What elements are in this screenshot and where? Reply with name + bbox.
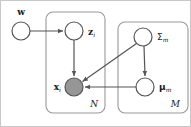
node-x[interactable]: xi <box>54 78 83 96</box>
edge-sigma-to-mu <box>144 46 145 76</box>
graphical-model-figure: N M w zi <box>0 0 191 127</box>
node-z-circle[interactable] <box>65 22 83 40</box>
plate-M: M <box>118 22 188 113</box>
node-z-label: zi <box>88 27 95 38</box>
plate-diagram-canvas: N M w zi <box>0 0 191 127</box>
node-mu[interactable]: μm <box>136 78 172 96</box>
edge-sigma-to-x <box>83 44 137 82</box>
node-x-label: xi <box>54 82 61 93</box>
node-x-circle[interactable] <box>65 78 83 96</box>
plate-N-label: N <box>89 99 99 109</box>
node-z[interactable]: zi <box>65 22 95 40</box>
node-mu-circle[interactable] <box>136 78 154 96</box>
node-sigma-circle[interactable] <box>134 28 152 46</box>
node-sigma-label: Σm <box>157 32 169 43</box>
node-mu-label: μm <box>159 82 172 93</box>
edges-group <box>30 31 145 87</box>
node-w-label: w <box>16 7 25 17</box>
plate-M-label: M <box>170 99 181 109</box>
node-sigma[interactable]: Σm <box>134 28 169 46</box>
node-w[interactable]: w <box>12 7 30 41</box>
node-w-circle[interactable] <box>12 22 30 40</box>
